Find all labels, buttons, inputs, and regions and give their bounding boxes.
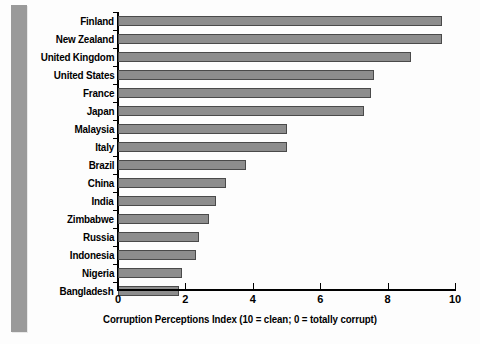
bar-row: [118, 66, 455, 84]
bar: [118, 88, 371, 98]
value-axis-tick: [253, 283, 254, 290]
category-label: United Kingdom: [40, 48, 114, 66]
value-axis-tick-label: 8: [373, 293, 403, 305]
bar-row: [118, 228, 455, 246]
decorative-left-band: [11, 5, 27, 332]
value-axis-tick-label: 2: [170, 293, 200, 305]
value-axis-tick-label: 10: [440, 293, 470, 305]
category-label: United States: [53, 66, 114, 84]
category-label: Malaysia: [74, 120, 114, 138]
bar-row: [118, 210, 455, 228]
category-axis-tick: [113, 102, 118, 103]
category-label: China: [88, 174, 114, 192]
value-axis-tick-label: 4: [238, 293, 268, 305]
bar-row: [118, 246, 455, 264]
bar-row: [118, 138, 455, 156]
bar: [118, 34, 442, 44]
value-axis-tick-label: 0: [103, 293, 133, 305]
bar: [118, 250, 196, 260]
bar-row: [118, 12, 455, 30]
value-axis-tick: [118, 283, 119, 290]
category-label: India: [92, 192, 114, 210]
category-label: Japan: [86, 102, 114, 120]
bar: [118, 142, 287, 152]
category-axis-tick: [113, 246, 118, 247]
category-axis-tick: [113, 228, 118, 229]
x-axis-title: Corruption Perceptions Index (10 = clean…: [7, 314, 473, 325]
bar: [118, 106, 364, 116]
chart-figure: FinlandNew ZealandUnited KingdomUnited S…: [0, 0, 480, 344]
bar-row: [118, 30, 455, 48]
category-label: Finland: [80, 12, 114, 30]
category-label: New Zealand: [56, 30, 114, 48]
plot-area: [118, 12, 455, 290]
category-axis-tick: [113, 84, 118, 85]
bar-row: [118, 192, 455, 210]
value-axis-tick: [185, 283, 186, 290]
bar: [118, 52, 411, 62]
category-axis-tick: [113, 30, 118, 31]
category-label: Italy: [95, 138, 114, 156]
bar-row: [118, 174, 455, 192]
bar: [118, 214, 209, 224]
category-axis-labels: FinlandNew ZealandUnited KingdomUnited S…: [30, 12, 114, 290]
category-axis-tick: [113, 120, 118, 121]
category-axis-tick: [113, 156, 118, 157]
category-axis-tick: [113, 264, 118, 265]
bar: [118, 124, 287, 134]
category-label: Russia: [83, 228, 114, 246]
value-axis-tick-label: 6: [305, 293, 335, 305]
bar: [118, 196, 216, 206]
category-axis-tick: [113, 210, 118, 211]
category-axis-tick: [113, 174, 118, 175]
bar: [118, 178, 226, 188]
bar: [118, 70, 374, 80]
category-label: France: [83, 84, 114, 102]
bar-row: [118, 102, 455, 120]
category-label: Nigeria: [82, 264, 114, 282]
bar-row: [118, 120, 455, 138]
category-axis-tick: [113, 66, 118, 67]
bar: [118, 160, 246, 170]
category-label: Zimbabwe: [67, 210, 114, 228]
category-axis-tick: [113, 12, 118, 13]
value-axis-tick: [320, 283, 321, 290]
bar-row: [118, 156, 455, 174]
bar-row: [118, 282, 455, 300]
category-label: Brazil: [88, 156, 114, 174]
category-label: Indonesia: [70, 246, 114, 264]
bar: [118, 232, 199, 242]
bar: [118, 16, 442, 26]
category-axis-tick: [113, 192, 118, 193]
bar-row: [118, 48, 455, 66]
value-axis-line: [117, 289, 456, 291]
value-axis-tick: [388, 283, 389, 290]
category-axis-tick: [113, 48, 118, 49]
bar: [118, 268, 182, 278]
bar-row: [118, 264, 455, 282]
category-axis-tick: [113, 138, 118, 139]
bar-row: [118, 84, 455, 102]
value-axis-tick: [455, 283, 456, 290]
